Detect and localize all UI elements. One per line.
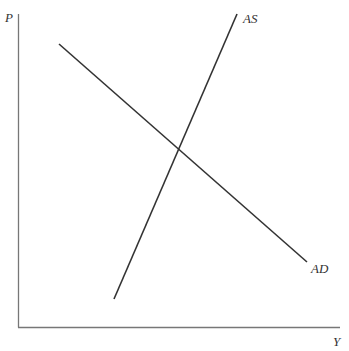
y-axis-label: P <box>5 11 13 24</box>
diagram-canvas <box>0 0 349 351</box>
as-ad-diagram: P AS AD Y <box>0 0 349 351</box>
as-curve <box>114 14 237 299</box>
as-curve-label: AS <box>243 12 257 25</box>
ad-curve <box>59 44 307 262</box>
x-axis-label: Y <box>333 335 340 348</box>
ad-curve-label: AD <box>311 262 328 275</box>
